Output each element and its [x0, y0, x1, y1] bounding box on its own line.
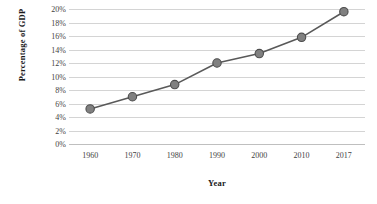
x-tick-label: 1980 — [167, 150, 183, 161]
plot-area: 1960: 5.2%1970: 7%1980: 8.8%1990: 12%200… — [69, 9, 365, 144]
x-tick-label: 2017 — [336, 150, 352, 161]
data-point-marker: 2017: 19.6% — [340, 8, 348, 16]
data-point-marker: 1970: 7% — [128, 93, 136, 101]
y-axis-title: Percentage of GDP — [17, 0, 27, 105]
y-tick-label: 4% — [38, 113, 66, 122]
data-point-marker: 2000: 13.4% — [255, 49, 263, 57]
y-tick-label: 14% — [38, 45, 66, 54]
data-point-marker: 2010: 15.8% — [297, 33, 305, 41]
y-tick-label: 6% — [38, 99, 66, 108]
y-tick-label: 18% — [38, 18, 66, 27]
x-axis-tick-labels: 1960197019801990200020102017 — [69, 150, 365, 164]
y-tick-label: 2% — [38, 126, 66, 135]
x-axis-title: Year — [69, 178, 365, 188]
y-tick-label: 0% — [38, 140, 66, 149]
x-tick-label: 1990 — [209, 150, 225, 161]
data-point-marker: 1960: 5.2% — [86, 105, 94, 113]
gridline — [69, 144, 365, 145]
line-chart: Percentage of GDP 0%2%4%6%8%10%12%14%16%… — [0, 0, 377, 204]
y-tick-label: 8% — [38, 86, 66, 95]
data-series: 1960: 5.2%1970: 7%1980: 8.8%1990: 12%200… — [69, 9, 365, 144]
y-tick-label: 10% — [38, 72, 66, 81]
x-tick-label: 1970 — [124, 150, 140, 161]
y-tick-label: 16% — [38, 32, 66, 41]
x-tick-label: 1960 — [82, 150, 98, 161]
x-tick-label: 2000 — [251, 150, 267, 161]
x-tick-label: 2010 — [294, 150, 310, 161]
data-point-marker: 1990: 12% — [213, 59, 221, 67]
y-axis-tick-labels: 0%2%4%6%8%10%12%14%16%18%20% — [38, 9, 66, 144]
y-tick-label: 12% — [38, 59, 66, 68]
data-point-marker: 1980: 8.8% — [171, 80, 179, 88]
y-tick-label: 20% — [38, 5, 66, 14]
